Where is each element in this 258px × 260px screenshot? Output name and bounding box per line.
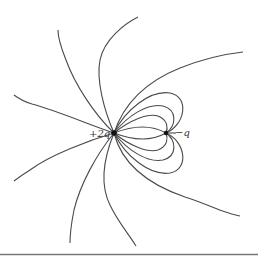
negative-charge-label: −q xyxy=(175,127,190,138)
positive-charge-label: +2q xyxy=(89,128,110,139)
field-line-diagram: +2q −q xyxy=(0,0,258,260)
positive-charge xyxy=(111,130,117,136)
field-line xyxy=(114,133,166,139)
negative-charge xyxy=(164,131,168,135)
field-line xyxy=(114,127,166,133)
field-line xyxy=(70,133,114,243)
outer-field-lines xyxy=(14,17,243,246)
field-line xyxy=(14,133,114,181)
